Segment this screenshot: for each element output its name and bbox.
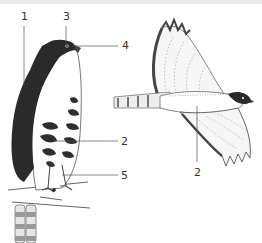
bird-diagram: 1 3 4 2 5 2 xyxy=(0,0,262,243)
label-4-beak: 4 xyxy=(122,40,129,51)
flying-bird-illustration xyxy=(114,20,254,166)
label-5-legs: 5 xyxy=(121,170,128,181)
label-2-underside: 2 xyxy=(194,167,201,178)
perched-bird-illustration xyxy=(8,40,90,243)
label-1-back: 1 xyxy=(21,11,28,22)
perched-tail xyxy=(15,205,36,243)
label-2-breast: 2 xyxy=(121,136,128,147)
illustration xyxy=(0,0,262,243)
label-3-crown: 3 xyxy=(63,11,70,22)
